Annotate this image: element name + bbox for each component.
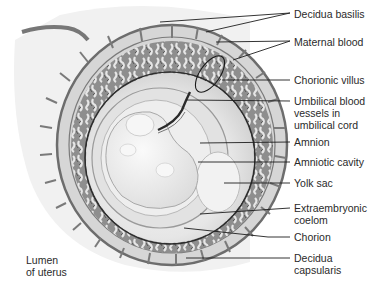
- label-extraembryonic-coelom: Extraembryonic coelom: [294, 202, 367, 226]
- label-chorion: Chorion: [294, 231, 331, 243]
- label-amniotic-cavity: Amniotic cavity: [294, 156, 364, 168]
- label-maternal-blood: Maternal blood: [294, 36, 363, 48]
- embryo-head: [126, 114, 154, 136]
- label-umbilical-blood-vessels: Umbilical blood vessels in umbilical cor…: [294, 95, 365, 131]
- label-yolk-sac: Yolk sac: [294, 177, 333, 189]
- label-decidua-basilis: Decidua basilis: [294, 8, 365, 20]
- label-decidua-capsularis: Decidua capsularis: [294, 252, 341, 276]
- label-chorionic-villus: Chorionic villus: [294, 74, 365, 86]
- yolk-sac: [196, 152, 240, 212]
- embryo-limb-bud: [120, 144, 136, 156]
- embryo-limb-bud: [156, 163, 174, 177]
- label-lumen-of-uterus: Lumen of uterus: [26, 254, 67, 278]
- label-amnion: Amnion: [294, 136, 330, 148]
